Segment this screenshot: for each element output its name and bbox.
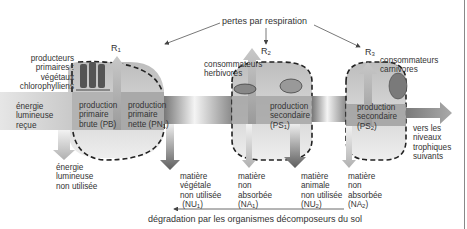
carnivores-line-1: consommateurs [380,56,438,65]
ps2-line-2: secondaire [357,112,397,121]
net-production-label: production primaire nette (PN1) [128,101,169,131]
na2-sub: 2 [362,203,365,209]
na1-line-3: absorbée [238,191,272,200]
unused-energy-label: énergie lumineuse non utilisée [56,163,97,191]
unused-line-2: lumineuse [56,172,97,181]
na1-sub: 1 [252,203,255,209]
net-code: nette (PN [128,120,163,129]
secondary-production-1-label: production secondaire (PS1) [270,102,310,132]
nu2-code: (NU2) [301,200,342,211]
input-energy-line-3: reçue [16,121,53,130]
ps2-line-1: production [357,103,397,112]
nu1-line-1: matière [180,172,221,181]
nu2-line-3: non utilisée [301,191,342,200]
nu1-line-2: végétale [180,181,221,190]
gross-line-2: primaire [79,110,117,119]
carnivores-line-2: carnivores [380,65,438,74]
loss-nu2-label: matière animale non utilisée (NU2) [301,172,342,212]
loss-nu1-label: matière végétale non utilisée (NU1) [180,172,221,212]
ps1-line-3: (PS1) [270,121,310,132]
gross-line-3: brute (PB) [79,120,117,129]
producers-label: producteurs primaires : végétaux chlorop… [12,54,74,92]
nu1-code-text: NU [185,200,197,209]
r2-sub: 2 [268,50,271,56]
respiration-title: pertes par respiration [222,17,307,26]
nu2-sub: 2 [316,203,319,209]
r1-label: R1 [111,44,121,55]
net-line-2: primaire [128,110,169,119]
producers-line-3: végétaux [12,73,74,82]
producers-line-4: chlorophylliens [12,82,74,91]
nu1-code: (NU1) [180,200,221,211]
next-line-3: trophiques [413,143,451,152]
r3-label: R3 [365,48,375,59]
ps1-close: ) [287,121,290,130]
pointer-r1 [165,23,220,44]
na1-line-2: non [238,181,272,190]
nu1-line-3: non utilisée [180,191,221,200]
nu2-line-2: animale [301,181,342,190]
r3-sub: 3 [372,51,375,57]
gross-production-label: production primaire brute (PB) [79,101,117,129]
r2-label: R2 [261,47,271,58]
r1-sub: 1 [118,47,121,53]
decomposer-caption: dégradation par les organismes décompose… [148,215,362,224]
nu2-code-text: NU [304,200,316,209]
producers-line-2: primaires : [12,63,74,72]
pointer-r3 [314,25,360,47]
nu2-line-1: matière [301,172,342,181]
gross-line-1: production [79,101,117,110]
transfer-band-2 [312,96,346,122]
input-energy-line-2: lumineuse [16,111,53,120]
ps2-close: ) [374,122,377,131]
na2-line-1: matière [348,172,382,181]
na1-line-1: matière [238,172,272,181]
next-level-arrow [406,102,452,124]
ps1-code: (PS [270,121,284,130]
input-energy-line-1: énergie [16,102,53,111]
na1-code-text: NA [241,200,252,209]
herbivores-line-2: herbivores [204,69,262,78]
next-line-1: vers les [413,124,451,133]
producers-line-1: producteurs [12,54,74,63]
next-levels-label: vers les niveaux trophiques suivants [413,124,451,162]
herbivore-icon-1 [234,84,256,94]
loss-na2-label: matière non absorbée (NA2) [348,172,382,212]
loss-na1-label: matière non absorbée (NA1) [238,172,272,212]
secondary-production-2-label: production secondaire (PS2) [357,103,397,133]
nu1-sub: 1 [197,203,200,209]
net-line-1: production [128,101,169,110]
ps2-line-3: (PS2) [357,122,397,133]
ps1-line-1: production [270,102,310,111]
herbivores-label: consommateurs herbivores [204,60,262,79]
herbivores-line-1: consommateurs [204,60,262,69]
na2-code-text: NA [351,200,362,209]
ps2-code: (PS [357,122,371,131]
carnivores-label: consommateurs carnivores [380,56,438,75]
next-line-4: suivants [413,152,451,161]
net-close: ) [166,120,169,129]
na2-line-3: absorbée [348,191,382,200]
transfer-band-1 [164,96,232,124]
herbivore-icon-2 [280,79,302,93]
plant-icon [76,62,110,90]
na2-line-2: non [348,181,382,190]
ps1-line-2: secondaire [270,111,310,120]
na2-code: (NA2) [348,200,382,211]
net-line-3: nette (PN1) [128,120,169,131]
unused-line-1: énergie [56,163,97,172]
na1-code: (NA1) [238,200,272,211]
next-line-2: niveaux [413,133,451,142]
owl-icon [389,73,407,99]
frame-edge [464,0,465,229]
input-energy-label: énergie lumineuse reçue [16,102,53,130]
unused-line-3: non utilisée [56,182,97,191]
